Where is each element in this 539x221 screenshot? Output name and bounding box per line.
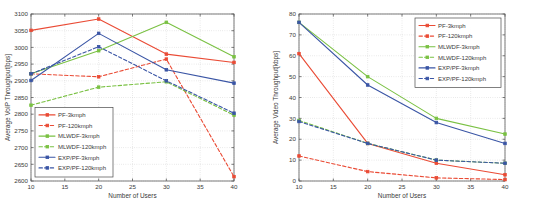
two-panel-figure: 2600265027002750280028502900295030003050… <box>0 0 539 221</box>
legend-label: EXP/PF-3kmph <box>58 155 99 161</box>
video-throughput-chart-panel: 0102030405060708010152025303540Number of… <box>269 0 538 221</box>
chart-legend: PF-3kmphPF-120kmphMLWDF-3kmphMLWDF-120km… <box>415 18 501 88</box>
legend-label: PF-120kmph <box>438 33 472 39</box>
data-point-marker <box>298 21 301 24</box>
y-tick-label: 3050 <box>14 27 28 34</box>
data-point-marker <box>504 178 507 181</box>
x-tick-label: 35 <box>467 183 474 190</box>
legend-label: EXP/PF-120kmph <box>58 165 106 171</box>
y-tick-label: 60 <box>289 52 296 59</box>
legend-swatch-marker <box>426 24 429 27</box>
x-tick-label: 25 <box>399 183 406 190</box>
data-point-marker <box>233 55 236 58</box>
data-point-marker <box>504 142 507 145</box>
data-point-marker <box>165 53 168 56</box>
y-tick-label: 50 <box>289 73 296 80</box>
legend-swatch-marker <box>46 135 49 138</box>
data-point-marker <box>435 121 438 124</box>
y-tick-label: 3100 <box>14 10 28 17</box>
data-point-marker <box>233 175 236 178</box>
data-point-marker <box>165 21 168 24</box>
voip-panel: 2600265027002750280028502900295030003050… <box>4 10 238 199</box>
x-tick-label: 25 <box>129 183 136 190</box>
data-point-marker <box>165 58 168 61</box>
y-tick-label: 80 <box>289 10 296 17</box>
data-point-marker <box>30 104 33 107</box>
data-point-marker <box>30 79 33 82</box>
data-point-marker <box>165 68 168 71</box>
voip-throughput-chart: 2600265027002750280028502900295030003050… <box>0 0 269 221</box>
data-point-marker <box>233 82 236 85</box>
x-tick-label: 20 <box>364 183 371 190</box>
x-tick-label: 10 <box>28 183 35 190</box>
legend-label: EXP/PF-3kmph <box>438 65 479 71</box>
y-tick-label: 2650 <box>14 161 28 168</box>
data-point-marker <box>30 29 33 32</box>
y-tick-label: 2850 <box>14 94 28 101</box>
data-point-marker <box>97 45 100 48</box>
data-point-marker <box>435 177 438 180</box>
data-point-marker <box>233 112 236 115</box>
chart-legend: PF-3kmphPF-120kmphMLWDF-3kmphMLWDF-120km… <box>35 107 113 177</box>
data-point-marker <box>233 61 236 64</box>
x-tick-label: 40 <box>231 183 238 190</box>
y-tick-label: 20 <box>289 135 296 142</box>
data-point-marker <box>366 84 369 87</box>
legend-swatch-marker <box>46 124 49 127</box>
data-point-marker <box>435 159 438 162</box>
x-tick-label: 15 <box>330 183 337 190</box>
data-point-marker <box>366 170 369 173</box>
y-tick-label: 2900 <box>14 77 28 84</box>
y-tick-label: 2600 <box>14 177 28 184</box>
x-tick-label: 15 <box>61 183 68 190</box>
y-tick-label: 70 <box>289 31 296 38</box>
x-axis-title: Number of Users <box>108 192 156 199</box>
data-point-marker <box>504 133 507 136</box>
data-point-marker <box>366 142 369 145</box>
data-point-marker <box>97 75 100 78</box>
data-point-marker <box>97 18 100 21</box>
x-axis-title: Number of Users <box>378 192 426 199</box>
y-tick-label: 10 <box>289 156 296 163</box>
legend-label: MLWDF-3kmph <box>438 44 480 50</box>
data-point-marker <box>165 80 168 83</box>
data-point-marker <box>435 162 438 165</box>
x-tick-label: 35 <box>197 183 204 190</box>
data-point-marker <box>97 49 100 52</box>
legend-label: PF-120kmph <box>58 123 92 129</box>
x-tick-label: 30 <box>433 183 440 190</box>
data-point-marker <box>435 117 438 120</box>
legend-label: PF-3kmph <box>438 23 466 29</box>
legend-swatch-marker <box>46 114 49 117</box>
legend-label: EXP/PF-120kmph <box>438 76 486 82</box>
legend-swatch-marker <box>426 77 429 80</box>
y-tick-label: 30 <box>289 115 296 122</box>
y-tick-label: 3000 <box>14 44 28 51</box>
x-tick-label: 30 <box>163 183 170 190</box>
y-tick-label: 2700 <box>14 144 28 151</box>
data-point-marker <box>97 32 100 35</box>
legend-label: MLWDF-120kmph <box>438 55 486 61</box>
data-point-marker <box>366 75 369 78</box>
data-point-marker <box>298 52 301 55</box>
data-point-marker <box>504 162 507 165</box>
legend-swatch-marker <box>426 45 429 48</box>
data-point-marker <box>298 120 301 123</box>
legend-label: MLWDF-3kmph <box>58 133 100 139</box>
data-point-marker <box>504 173 507 176</box>
x-tick-label: 10 <box>296 183 303 190</box>
legend-swatch-marker <box>46 167 49 170</box>
legend-swatch-marker <box>46 145 49 148</box>
y-tick-label: 2800 <box>14 110 28 117</box>
legend-swatch-marker <box>426 56 429 59</box>
video-throughput-chart: 0102030405060708010152025303540Number of… <box>269 0 538 221</box>
voip-throughput-chart-panel: 2600265027002750280028502900295030003050… <box>0 0 269 221</box>
y-tick-label: 2750 <box>14 127 28 134</box>
legend-label: PF-3kmph <box>58 112 86 118</box>
y-tick-label: 2950 <box>14 60 28 67</box>
legend-swatch-marker <box>426 67 429 70</box>
x-tick-label: 20 <box>95 183 102 190</box>
legend-swatch-marker <box>426 35 429 38</box>
data-point-marker <box>97 86 100 89</box>
data-point-marker <box>298 155 301 158</box>
